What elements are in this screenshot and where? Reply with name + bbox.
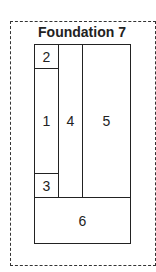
region-6: 6: [34, 197, 131, 244]
region-5: 5: [82, 44, 131, 198]
region-2: 2: [34, 44, 59, 69]
diagram-title: Foundation 7: [34, 22, 130, 42]
region-4: 4: [58, 44, 83, 198]
region-1: 1: [34, 68, 59, 174]
region-3: 3: [34, 173, 59, 198]
